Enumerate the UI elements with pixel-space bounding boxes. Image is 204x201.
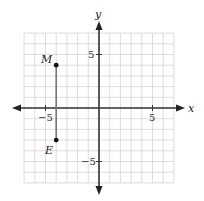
x-tick-label-neg5: −5 <box>38 112 53 123</box>
x-axis-right-arrow-icon <box>176 105 185 112</box>
coordinate-plane: x y −5 5 5 −5 M E <box>0 0 204 201</box>
point-e-label: E <box>44 144 53 157</box>
point-e <box>54 138 59 143</box>
point-m <box>54 63 59 68</box>
x-axis-left-arrow-icon <box>12 105 21 112</box>
y-axis-down-arrow-icon <box>96 186 103 195</box>
y-axis-up-arrow-icon <box>96 21 103 30</box>
x-tick-label-5: 5 <box>149 112 155 123</box>
y-tick-label-neg5: −5 <box>81 156 96 167</box>
y-axis-label: y <box>94 8 102 21</box>
x-axis-label: x <box>188 102 195 115</box>
y-tick-label-5: 5 <box>88 49 94 60</box>
point-m-label: M <box>40 53 53 66</box>
